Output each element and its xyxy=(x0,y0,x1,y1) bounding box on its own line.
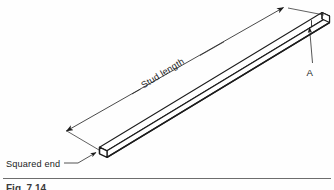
figure-page: Stud length Squared end A Fig. 7.14 xyxy=(0,0,334,190)
squared-end-label: Squared end xyxy=(6,159,60,169)
figure-caption: Fig. 7.14 xyxy=(6,183,46,190)
stud-engineering-drawing: Stud length Squared end A Fig. 7.14 xyxy=(0,0,334,190)
detail-a-label: A xyxy=(307,67,314,78)
